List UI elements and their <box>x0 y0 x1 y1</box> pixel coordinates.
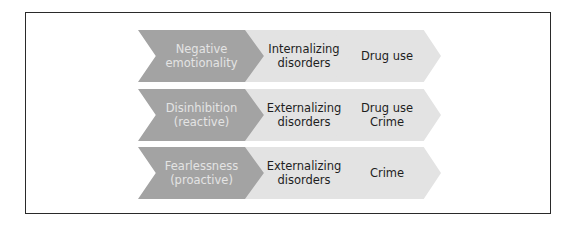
trait-chevron: Disinhibition (reactive) <box>138 89 265 141</box>
outcome-label: Drug use <box>361 49 413 63</box>
outcome-label: Crime <box>370 166 404 180</box>
pathway-row-1: Negative emotionality Internalizing diso… <box>0 30 572 82</box>
disorder-label: Externalizing disorders <box>267 101 342 129</box>
disorder-label: Internalizing disorders <box>268 42 339 70</box>
outcome-label: Drug use Crime <box>361 101 413 129</box>
trait-chevron: Fearlessness (proactive) <box>138 147 265 199</box>
trait-chevron: Negative emotionality <box>138 30 265 82</box>
pathway-row-2: Disinhibition (reactive) Externalizing d… <box>0 89 572 141</box>
trait-label: Disinhibition (reactive) <box>166 101 238 129</box>
disorder-label: Externalizing disorders <box>267 159 342 187</box>
pathway-row-3: Fearlessness (proactive) Externalizing d… <box>0 147 572 199</box>
trait-label: Fearlessness (proactive) <box>165 159 238 187</box>
trait-label: Negative emotionality <box>165 42 237 70</box>
